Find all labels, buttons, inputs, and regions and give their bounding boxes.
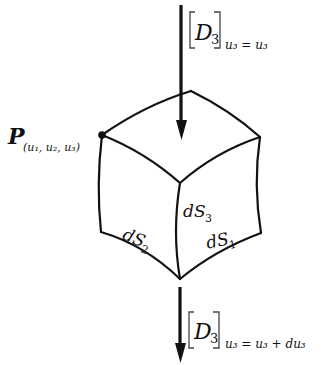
volume-element-diagram: P (u₁, u₂, u₃) D 3 u₃ = u₃ D 3 u₃ = u₃ +… bbox=[0, 0, 328, 365]
bottom-flux-condition: u₃ = u₃ + du₃ bbox=[225, 337, 306, 351]
point-label-coords: (u₁, u₂, u₃) bbox=[23, 141, 80, 154]
edge-p-to-back bbox=[102, 91, 191, 135]
point-p-dot bbox=[98, 131, 106, 139]
edge-left-vertical bbox=[99, 135, 102, 232]
top-flux-arrow bbox=[176, 5, 187, 140]
point-label: P (u₁, u₂, u₃) bbox=[7, 123, 80, 154]
top-flux-condition: u₃ = u₃ bbox=[225, 38, 268, 52]
bottom-flux-symbol-sub: 3 bbox=[210, 331, 218, 346]
edge-back-to-right bbox=[191, 91, 260, 137]
face-label-ds3: dS 3 bbox=[183, 201, 212, 225]
face-label-ds2: dS 2 bbox=[118, 224, 154, 257]
top-flux-symbol-sub: 3 bbox=[211, 32, 219, 47]
face-ds1-sub: 1 bbox=[228, 238, 238, 252]
edge-p-to-front bbox=[102, 135, 180, 183]
edge-front-vertical bbox=[176, 183, 180, 279]
bottom-flux-label: D 3 u₃ = u₃ + du₃ bbox=[189, 312, 306, 351]
face-ds3-main: dS bbox=[183, 201, 206, 221]
top-flux-label: D 3 u₃ = u₃ bbox=[190, 12, 268, 52]
edge-right-vertical bbox=[257, 137, 261, 233]
edge-right-to-front bbox=[180, 137, 260, 183]
bottom-flux-arrow bbox=[175, 287, 186, 363]
face-ds3-sub: 3 bbox=[205, 212, 212, 225]
